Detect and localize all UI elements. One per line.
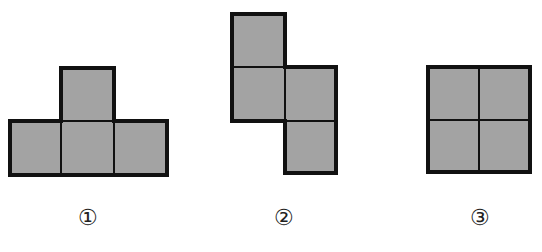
- shape-1-label: ①: [68, 206, 108, 230]
- shape-3-label: ③: [460, 206, 500, 230]
- shape-3-o-tetromino: [428, 67, 530, 172]
- shape-2-s-tetromino: [232, 14, 336, 173]
- shape-2-label: ②: [264, 206, 304, 230]
- shape-1-t-tetromino: [10, 68, 167, 175]
- tetromino-figure: ① ② ③: [0, 0, 542, 252]
